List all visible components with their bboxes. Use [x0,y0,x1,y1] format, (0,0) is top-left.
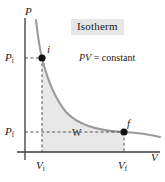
y-tick-pf-sub: f [12,131,14,139]
point-label-f: f [127,118,130,129]
x-tick-label-vf: Vf [118,160,127,171]
y-tick-label-pf: Pf [5,126,14,137]
x-tick-vi-sub: i [43,165,45,173]
isotherm-label: Isotherm [71,19,124,35]
pv-isotherm-figure: Isotherm PV = constant P V Pi Pf Vi Vf i… [0,0,165,182]
point-label-i: i [47,44,50,55]
pv-equation-relation: = constant [91,52,135,63]
x-tick-vf-base: V [118,159,125,171]
pv-equation-variables: PV [79,52,91,63]
point-marker-i [38,54,45,61]
x-axis-label: V [151,152,158,163]
x-tick-vf-sub: f [125,165,127,173]
pv-constant-equation: PV = constant [79,53,135,63]
y-tick-label-pi: Pi [5,52,14,63]
x-tick-vi-base: V [36,159,43,171]
work-region-label: W [72,128,81,138]
y-axis-label: P [25,6,32,17]
x-tick-label-vi: Vi [36,160,45,171]
y-tick-pi-sub: i [12,57,14,65]
point-marker-f [120,128,127,135]
work-shaded-region [42,58,124,152]
y-tick-pi-base: P [5,51,12,63]
y-tick-pf-base: P [5,125,12,137]
